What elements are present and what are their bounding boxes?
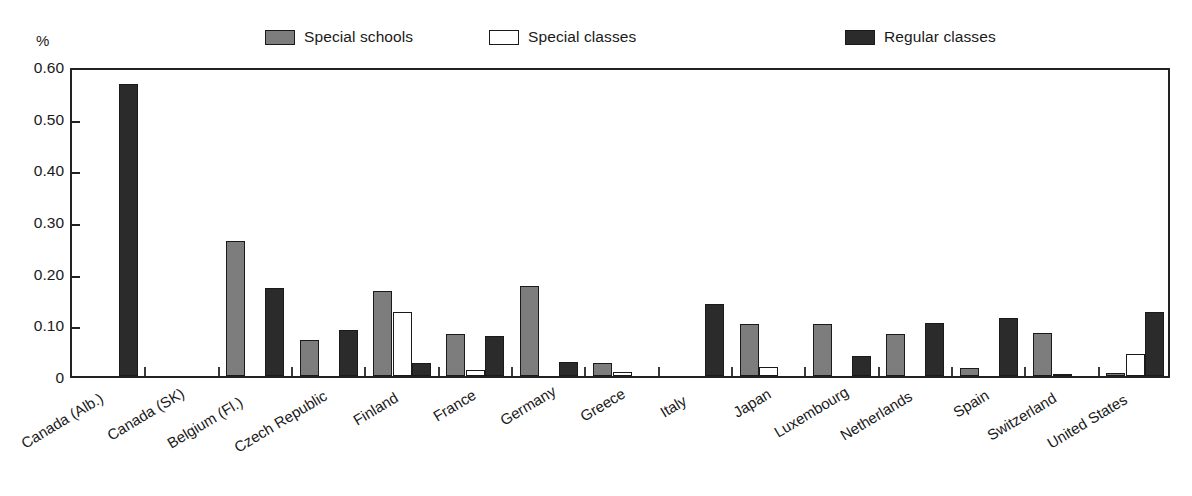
- bar: [813, 324, 832, 376]
- y-tick-mark: [72, 172, 80, 174]
- bar: [373, 291, 392, 376]
- x-group-tick: [144, 367, 146, 376]
- bar: [1126, 354, 1145, 376]
- chart-legend: Special schoolsSpecial classesRegular cl…: [0, 26, 1192, 48]
- x-tick-label: Czech Republic: [231, 387, 330, 456]
- bar: [593, 363, 612, 376]
- bar: [520, 286, 539, 376]
- y-tick-mark: [72, 224, 80, 226]
- x-group-tick: [584, 367, 586, 376]
- bar: [226, 241, 245, 376]
- y-axis-labels: 0.600.500.400.300.200.100: [4, 68, 64, 378]
- chart-figure: % Special schoolsSpecial classesRegular …: [0, 0, 1192, 496]
- bar: [960, 368, 979, 376]
- bar: [446, 334, 465, 376]
- x-group-tick: [878, 367, 880, 376]
- legend-label: Regular classes: [884, 28, 996, 46]
- plot-area: [70, 68, 1170, 378]
- bar: [300, 340, 319, 376]
- x-group-tick: [804, 367, 806, 376]
- y-tick-label: 0.10: [6, 317, 64, 335]
- bar: [559, 362, 578, 376]
- x-group-tick: [658, 367, 660, 376]
- bar: [466, 370, 485, 376]
- x-group-tick: [438, 367, 440, 376]
- legend-swatch-special-schools-icon: [265, 30, 295, 45]
- x-axis-labels: Canada (Alb.)Canada (SK)Belgium (Fl.)Cze…: [0, 378, 1192, 496]
- y-tick-label: 0.20: [6, 266, 64, 284]
- bar: [119, 84, 138, 376]
- x-tick-label: Germany: [497, 382, 559, 428]
- bar: [393, 312, 412, 376]
- x-group-tick: [731, 367, 733, 376]
- bar: [1145, 312, 1164, 376]
- x-tick-label: Japan: [730, 385, 774, 421]
- x-group-tick: [364, 367, 366, 376]
- bar: [1053, 374, 1072, 376]
- bar: [740, 324, 759, 376]
- bar: [852, 356, 871, 376]
- x-tick-label: France: [430, 386, 479, 425]
- bar: [1106, 373, 1125, 376]
- bars-container: [72, 70, 1168, 376]
- y-tick-mark: [72, 276, 80, 278]
- x-group-tick: [951, 367, 953, 376]
- bar: [412, 363, 431, 376]
- x-tick-label: Italy: [657, 392, 689, 421]
- bar: [265, 288, 284, 376]
- x-tick-label: Spain: [950, 386, 992, 420]
- bar: [886, 334, 905, 376]
- x-group-tick: [1098, 367, 1100, 376]
- y-tick-mark: [72, 121, 80, 123]
- legend-label: Special schools: [304, 28, 413, 46]
- bar: [485, 336, 504, 376]
- bar: [759, 367, 778, 376]
- bar: [1033, 333, 1052, 376]
- y-tick-label: 0.50: [6, 111, 64, 129]
- y-tick-label: 0.60: [6, 59, 64, 77]
- x-group-tick: [1024, 367, 1026, 376]
- bar: [339, 330, 358, 377]
- x-group-tick: [291, 367, 293, 376]
- x-tick-label: Canada (Alb.): [18, 390, 106, 452]
- legend-swatch-special-classes-icon: [489, 30, 519, 45]
- legend-item-regular-classes[interactable]: Regular classes: [845, 26, 996, 48]
- bar: [925, 323, 944, 376]
- legend-item-special-classes[interactable]: Special classes: [489, 26, 636, 48]
- x-tick-label: Finland: [350, 388, 401, 428]
- y-tick-label: 0.30: [6, 214, 64, 232]
- y-tick-mark: [72, 327, 80, 329]
- x-tick-label: Greece: [577, 384, 628, 424]
- bar: [999, 318, 1018, 376]
- x-group-tick: [511, 367, 513, 376]
- legend-swatch-regular-classes-icon: [845, 30, 875, 45]
- bar: [613, 372, 632, 376]
- bar: [705, 304, 724, 376]
- legend-item-special-schools[interactable]: Special schools: [265, 26, 413, 48]
- x-group-tick: [218, 367, 220, 376]
- legend-label: Special classes: [528, 28, 636, 46]
- y-tick-label: 0.40: [6, 162, 64, 180]
